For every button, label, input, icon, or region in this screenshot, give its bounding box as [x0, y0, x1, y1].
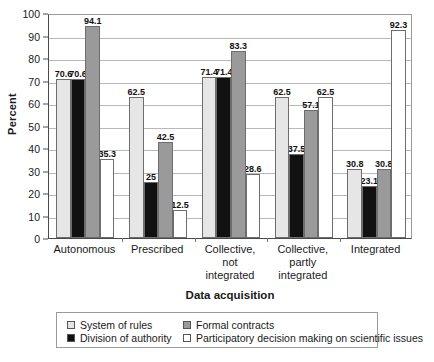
y-tick-label: 20	[28, 188, 40, 200]
x-tick-mark	[122, 238, 123, 242]
plot-area: 70.670.694.135.362.52542.512.571.471.483…	[48, 14, 412, 239]
legend-label: Formal contracts	[196, 319, 274, 331]
x-category-label: Collective, not integrated	[205, 243, 256, 282]
y-tick-label: 40	[28, 143, 40, 155]
legend-label: Division of authority	[80, 332, 172, 344]
x-category-label: Integrated	[351, 243, 401, 256]
legend-swatch	[183, 334, 191, 342]
bar[interactable]	[362, 186, 377, 238]
x-axis-category-labels: AutonomousPrescribedCollective, not inte…	[48, 243, 412, 291]
chart-legend: System of rulesDivision of authorityForm…	[56, 312, 378, 348]
x-category-label: Autonomous	[54, 243, 116, 256]
y-tick-label: 70	[28, 76, 40, 88]
legend-swatch	[67, 334, 75, 342]
bars-layer: 70.670.694.135.362.52542.512.571.471.483…	[49, 15, 411, 238]
bar-group	[275, 15, 333, 238]
bar-group	[347, 15, 405, 238]
legend-entry[interactable]: Participatory decision making on scienti…	[183, 332, 423, 344]
bar[interactable]	[202, 77, 217, 238]
legend-label: System of rules	[80, 319, 152, 331]
bar[interactable]	[391, 30, 406, 238]
legend-swatch	[67, 321, 75, 329]
x-axis-title: Data acquisition	[48, 289, 412, 301]
legend-entry[interactable]: Formal contracts	[183, 319, 274, 331]
bar[interactable]	[216, 77, 231, 238]
bar[interactable]	[275, 97, 290, 238]
legend-entry[interactable]: System of rules	[67, 319, 152, 331]
legend-entry[interactable]: Division of authority	[67, 332, 172, 344]
bar[interactable]	[56, 79, 71, 238]
bar-group	[56, 15, 114, 238]
bar[interactable]	[347, 169, 362, 238]
y-tick-label: 50	[28, 121, 40, 133]
bar[interactable]	[289, 154, 304, 238]
bar[interactable]	[318, 97, 333, 238]
y-axis-ticks: 0102030405060708090100	[0, 14, 48, 239]
x-category-label: Collective, partly integrated	[277, 243, 328, 282]
bar[interactable]	[129, 97, 144, 238]
legend-label: Participatory decision making on scienti…	[196, 332, 423, 344]
bar-group	[129, 15, 187, 238]
legend-swatch	[183, 321, 191, 329]
bar[interactable]	[246, 174, 261, 238]
x-tick-mark	[267, 238, 268, 242]
bar[interactable]	[158, 142, 173, 238]
bar[interactable]	[100, 159, 115, 238]
bar[interactable]	[85, 26, 100, 238]
y-tick-label: 60	[28, 98, 40, 110]
y-tick-label: 30	[28, 166, 40, 178]
x-tick-mark	[195, 238, 196, 242]
y-tick-label: 0	[34, 233, 40, 245]
y-tick-label: 100	[22, 8, 40, 20]
bar[interactable]	[377, 169, 392, 238]
bar[interactable]	[304, 110, 319, 238]
y-tick-label: 80	[28, 53, 40, 65]
bar[interactable]	[173, 210, 188, 238]
bar-chart-figure: Percent 0102030405060708090100 70.670.69…	[0, 0, 434, 362]
y-tick-label: 90	[28, 31, 40, 43]
bar[interactable]	[71, 79, 86, 238]
y-tick-label: 10	[28, 211, 40, 223]
bar[interactable]	[144, 182, 159, 238]
bar[interactable]	[231, 51, 246, 238]
x-category-label: Prescribed	[131, 243, 184, 256]
x-tick-mark	[340, 238, 341, 242]
bar-group	[202, 15, 260, 238]
